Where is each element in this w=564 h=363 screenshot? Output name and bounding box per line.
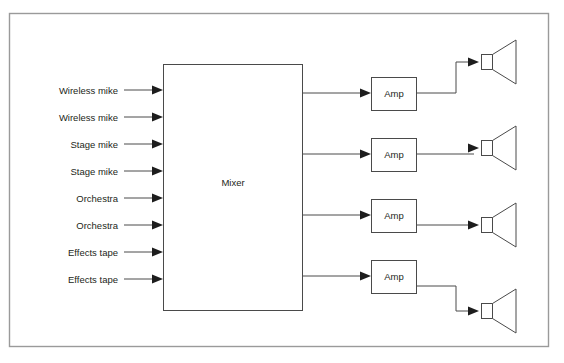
input-group-2: Wireless mike <box>59 112 163 123</box>
input-group-3: Stage mike <box>70 139 163 150</box>
input-group-6: Orchestra <box>76 220 163 231</box>
speaker-horn-icon <box>482 55 493 70</box>
amp1-to-speaker1-wire <box>416 58 479 94</box>
amp-3[interactable]: Amp <box>372 200 417 233</box>
arrow-right-icon <box>468 307 479 316</box>
arrow-right-icon <box>360 150 371 159</box>
amp-label: Amp <box>384 149 404 160</box>
input-label: Wireless mike <box>59 85 118 96</box>
arrow-right-icon <box>152 194 163 203</box>
mixer-output-4 <box>302 272 371 281</box>
input-label: Stage mike <box>70 166 118 177</box>
amp4-to-speaker4-wire <box>416 286 479 316</box>
speaker-horn-icon <box>482 218 493 233</box>
arrow-right-icon <box>152 113 163 122</box>
amp-1[interactable]: Amp <box>372 78 417 111</box>
input-label: Orchestra <box>76 220 118 231</box>
arrow-right-icon <box>152 140 163 149</box>
arrow-right-icon <box>360 272 371 281</box>
speaker-cone-icon <box>493 40 517 84</box>
input-group-8: Effects tape <box>68 274 163 285</box>
arrow-right-icon <box>468 221 479 230</box>
arrow-right-icon <box>468 58 479 67</box>
mixer-label: Mixer <box>221 177 244 188</box>
input-group-1: Wireless mike <box>59 85 163 96</box>
signal-wire <box>416 62 474 93</box>
arrow-right-icon <box>152 221 163 230</box>
signal-flow-diagram: Wireless mike Wireless mike Stage mike S… <box>0 0 564 363</box>
arrow-right-icon <box>152 248 163 257</box>
amp2-to-speaker2-wire <box>416 144 479 155</box>
speaker-2[interactable] <box>482 126 517 170</box>
input-label: Effects tape <box>68 274 118 285</box>
speaker-1[interactable] <box>482 40 517 84</box>
arrow-right-icon <box>152 275 163 284</box>
amp-label: Amp <box>384 88 404 99</box>
arrow-right-icon <box>468 144 479 153</box>
input-label: Stage mike <box>70 139 118 150</box>
arrow-right-icon <box>360 89 371 98</box>
speaker-3[interactable] <box>482 203 517 247</box>
amp-2[interactable]: Amp <box>372 139 417 172</box>
arrow-right-icon <box>152 86 163 95</box>
input-group-7: Effects tape <box>68 247 163 258</box>
arrow-right-icon <box>152 167 163 176</box>
diagram-canvas: Wireless mike Wireless mike Stage mike S… <box>0 0 564 363</box>
input-group-4: Stage mike <box>70 166 163 177</box>
input-label: Orchestra <box>76 193 118 204</box>
speaker-cone-icon <box>493 126 517 170</box>
amp3-to-speaker3-wire <box>416 221 479 230</box>
mixer-output-1 <box>302 89 371 98</box>
mixer-output-2 <box>302 150 371 159</box>
input-label: Effects tape <box>68 247 118 258</box>
mixer-output-3 <box>302 211 371 220</box>
arrow-right-icon <box>360 211 371 220</box>
speaker-horn-icon <box>482 304 493 319</box>
speaker-cone-icon <box>493 289 517 333</box>
signal-wire <box>416 286 474 311</box>
input-label: Wireless mike <box>59 112 118 123</box>
speaker-horn-icon <box>482 141 493 156</box>
speaker-4[interactable] <box>482 289 517 333</box>
speaker-cone-icon <box>493 203 517 247</box>
input-group-5: Orchestra <box>76 193 163 204</box>
amp-4[interactable]: Amp <box>372 261 417 294</box>
amp-label: Amp <box>384 271 404 282</box>
amp-label: Amp <box>384 210 404 221</box>
